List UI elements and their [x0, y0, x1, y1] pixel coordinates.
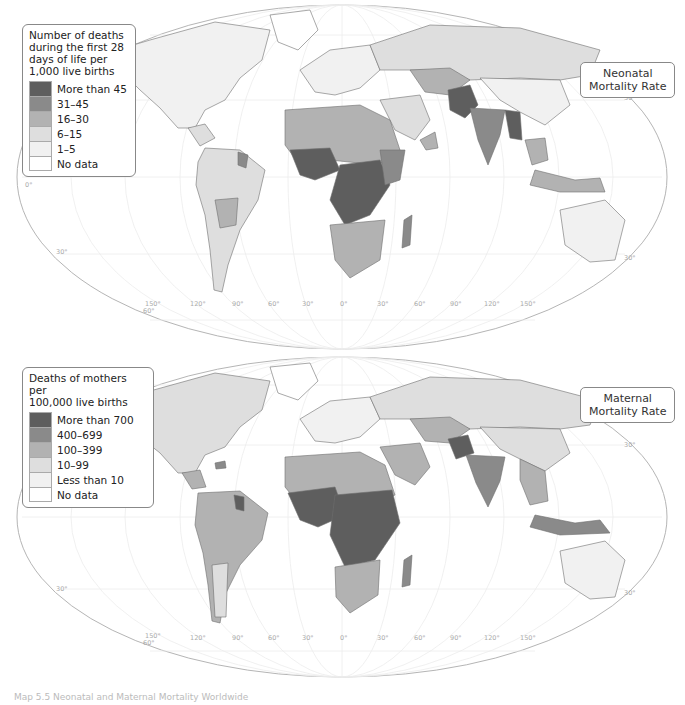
legend-item: 10–99 — [29, 457, 147, 472]
legend-item: More than 700 — [29, 412, 147, 427]
legend-item: No data — [29, 487, 147, 502]
legend-swatch — [29, 141, 52, 156]
figure-caption: Map 5.5 Neonatal and Maternal Mortality … — [14, 692, 248, 702]
svg-text:60°: 60° — [414, 300, 426, 308]
legend-title: Number of deaths during the first 28 day… — [29, 29, 129, 77]
legend-item: More than 45 — [29, 81, 129, 96]
legend-swatch — [29, 81, 52, 96]
legend-item: 400–699 — [29, 427, 147, 442]
svg-text:120°: 120° — [484, 300, 500, 308]
svg-text:60°: 60° — [414, 634, 426, 642]
maternal-legend: Deaths of mothers per 100,000 live birth… — [22, 367, 154, 508]
svg-text:120°: 120° — [190, 634, 206, 642]
legend-swatch — [29, 442, 52, 457]
legend-swatch — [29, 126, 52, 141]
svg-text:60°: 60° — [268, 634, 280, 642]
svg-text:30°: 30° — [302, 634, 314, 642]
legend-item: 6–15 — [29, 126, 129, 141]
legend-item: 1–5 — [29, 141, 129, 156]
svg-text:60°: 60° — [268, 300, 280, 308]
svg-text:90°: 90° — [450, 300, 462, 308]
svg-text:150°: 150° — [145, 632, 161, 640]
svg-text:90°: 90° — [232, 634, 244, 642]
neonatal-map-panel: 30° 0° 30° 30° 60° 150° 120° 90° 60° 30°… — [0, 0, 685, 355]
svg-text:120°: 120° — [484, 634, 500, 642]
svg-text:30°: 30° — [624, 254, 636, 262]
svg-text:30°: 30° — [56, 585, 68, 593]
svg-text:30°: 30° — [56, 248, 68, 256]
svg-text:150°: 150° — [145, 300, 161, 308]
maternal-map-title: Maternal Mortality Rate — [580, 387, 675, 423]
svg-text:150°: 150° — [520, 634, 536, 642]
maternal-map-panel: 30° 30° 30° 60° 150° 120° 90° 60° 30° 0°… — [0, 355, 685, 690]
legend-swatch — [29, 472, 52, 487]
legend-title: Deaths of mothers per 100,000 live birth… — [29, 372, 147, 408]
legend-item: Less than 10 — [29, 472, 147, 487]
svg-text:0°: 0° — [25, 181, 32, 189]
svg-text:90°: 90° — [450, 634, 462, 642]
svg-text:0°: 0° — [340, 634, 347, 642]
legend-item: 31–45 — [29, 96, 129, 111]
svg-text:90°: 90° — [232, 300, 244, 308]
svg-text:0°: 0° — [340, 300, 347, 308]
legend-item: 16–30 — [29, 111, 129, 126]
legend-swatch — [29, 96, 52, 111]
svg-text:30°: 30° — [377, 300, 389, 308]
legend-item: 100–399 — [29, 442, 147, 457]
svg-text:30°: 30° — [377, 634, 389, 642]
legend-swatch — [29, 156, 52, 171]
svg-text:30°: 30° — [302, 300, 314, 308]
svg-text:60°: 60° — [143, 307, 155, 315]
svg-text:120°: 120° — [190, 300, 206, 308]
svg-text:30°: 30° — [624, 441, 636, 449]
legend-swatch — [29, 412, 52, 427]
svg-text:60°: 60° — [143, 639, 155, 647]
legend-swatch — [29, 111, 52, 126]
neonatal-legend: Number of deaths during the first 28 day… — [22, 24, 136, 177]
legend-swatch — [29, 457, 52, 472]
neonatal-map-title: Neonatal Mortality Rate — [580, 62, 675, 98]
svg-text:30°: 30° — [624, 589, 636, 597]
svg-text:150°: 150° — [520, 300, 536, 308]
legend-swatch — [29, 427, 52, 442]
legend-item: No data — [29, 156, 129, 171]
legend-swatch — [29, 487, 52, 502]
